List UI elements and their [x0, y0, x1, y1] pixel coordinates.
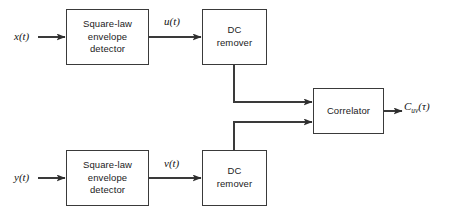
block-square-law-envelope-detector-top: Square-law envelope detector	[66, 9, 149, 65]
signal-label-mid-bottom: v(t)	[164, 157, 179, 169]
signal-label-output-correlation: Cuv(τ)	[404, 100, 430, 115]
block-diagram: Square-law envelope detector DC remover …	[0, 0, 452, 223]
block-correlator: Correlator	[313, 88, 384, 134]
block-label: Square-law envelope detector	[80, 159, 135, 197]
block-label: Correlator	[324, 105, 373, 118]
signal-label-input-bottom: y(t)	[14, 171, 29, 183]
block-square-law-envelope-detector-bottom: Square-law envelope detector	[66, 150, 149, 206]
block-dc-remover-bottom: DC remover	[202, 150, 267, 206]
signal-label-mid-top: u(t)	[164, 15, 180, 27]
signal-label-input-top: x(t)	[14, 30, 29, 42]
output-argument: (τ)	[418, 100, 429, 112]
block-label: DC remover	[214, 24, 256, 50]
block-label: Square-law envelope detector	[80, 18, 135, 56]
block-dc-remover-top: DC remover	[202, 9, 267, 65]
block-label: DC remover	[214, 165, 256, 191]
